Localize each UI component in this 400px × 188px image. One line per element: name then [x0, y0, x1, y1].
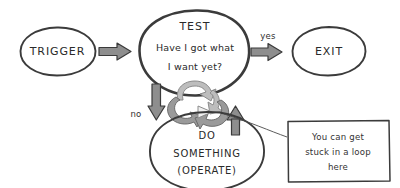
- node-exit[interactable]: EXIT: [292, 27, 365, 76]
- flowchart-svg: TRIGGER TEST Have I got what I want yet?…: [0, 0, 400, 188]
- arrow-test-to-operate: [148, 84, 165, 120]
- node-operate-line3: (OPERATE): [177, 165, 236, 176]
- arrow-operate-to-test: [227, 106, 244, 135]
- callout-line1: You can get: [311, 132, 364, 142]
- node-operate-line1: DO: [199, 130, 216, 141]
- flowchart-canvas: TRIGGER TEST Have I got what I want yet?…: [0, 0, 400, 188]
- callout-box: You can get stuck in a loop here: [288, 121, 390, 183]
- node-operate-line2: SOMETHING: [173, 148, 240, 159]
- node-test-line2: I want yet?: [168, 61, 223, 72]
- cyclic-loop-arrows-icon: [168, 81, 229, 129]
- edge-label-yes: yes: [260, 31, 276, 41]
- node-trigger[interactable]: TRIGGER: [20, 27, 95, 75]
- node-test-heading: TEST: [179, 20, 211, 33]
- edge-label-no: no: [130, 109, 141, 119]
- arrow-test-to-exit: [251, 44, 282, 61]
- callout-line2: stuck in a loop: [305, 147, 371, 157]
- node-trigger-label: TRIGGER: [29, 45, 86, 58]
- node-test-line1: Have I got what: [156, 42, 234, 53]
- callout-line3: here: [328, 162, 348, 172]
- arrow-trigger-to-test: [99, 43, 131, 60]
- node-exit-label: EXIT: [315, 45, 343, 58]
